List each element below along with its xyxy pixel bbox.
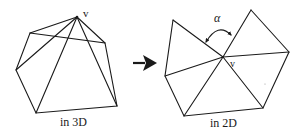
mesh-2d-spoke	[223, 52, 289, 57]
mesh-2d-spoke	[184, 57, 223, 116]
transform-arrow	[133, 55, 157, 71]
vertex-v-2d-label: v	[230, 58, 235, 69]
angle-alpha-label: α	[214, 11, 221, 25]
mesh-2d-spoke	[173, 20, 223, 57]
caption-2d: in 2D	[210, 116, 237, 130]
caption-3d: in 3D	[60, 115, 87, 129]
arrow-right-icon	[143, 55, 157, 71]
mesh-2d: α v in 2D	[165, 10, 289, 130]
mesh-2d-spoke	[223, 10, 251, 57]
vertex-v-3d-label: v	[83, 7, 89, 19]
vertex-v-3d-dot	[76, 16, 79, 19]
mesh-2d-spoke	[165, 57, 223, 76]
speck	[264, 83, 265, 84]
diagram-canvas: v in 3D α v in 2D	[0, 0, 305, 133]
mesh-3d-spoke	[30, 17, 77, 33]
mesh-3d-spoke	[16, 17, 77, 70]
mesh-2d-boundary	[165, 10, 289, 116]
mesh-3d-spoke	[36, 17, 77, 113]
mesh-3d-spoke	[77, 17, 117, 106]
mesh-3d-spoke	[77, 17, 105, 43]
mesh-2d-spoke	[223, 57, 263, 108]
angle-gap-arc-icon	[206, 30, 231, 42]
mesh-3d: v in 3D	[16, 7, 117, 129]
